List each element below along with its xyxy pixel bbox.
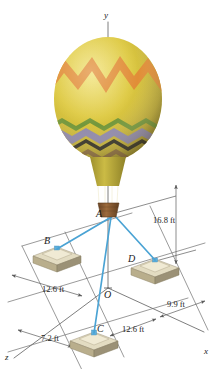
cable-ad <box>115 216 155 260</box>
hot-air-balloon <box>44 37 174 217</box>
anchor-block-c <box>70 330 118 357</box>
dim-c-offset-x-arrow <box>110 319 156 336</box>
dim-height-extension-top <box>115 196 176 213</box>
figure-canvas <box>0 0 216 369</box>
balloon-basket <box>98 203 119 217</box>
balloon-skirt <box>90 157 126 186</box>
dim-b-offset-arrow <box>12 275 82 296</box>
grid-line-x-1 <box>22 213 132 246</box>
anchor-block-d <box>131 258 179 284</box>
axis-x-line <box>108 288 204 332</box>
balloon-statics-figure: y x z O A B C D 16.8 ft 12.6 ft 9.9 ft 1… <box>0 0 216 369</box>
